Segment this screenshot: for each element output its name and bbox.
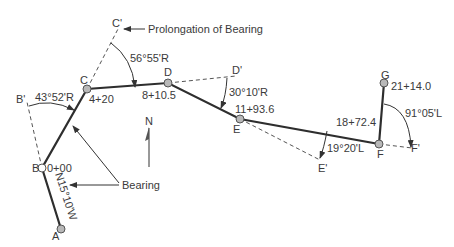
prolongation-cd <box>168 76 236 83</box>
label-g: G <box>381 69 390 81</box>
label-b-prime: B' <box>16 93 25 105</box>
prolongation-bc <box>87 29 118 89</box>
angle-label-e: 19°20'L <box>327 142 364 154</box>
station-c: 4+20 <box>89 93 114 105</box>
prolongation-label: Prolongation of Bearing <box>148 23 263 35</box>
label-d: D <box>164 66 172 78</box>
label-b: B <box>32 162 39 174</box>
label-f: F <box>377 148 384 160</box>
bearing-label: Bearing <box>122 179 160 191</box>
label-f-prime: F' <box>411 142 420 154</box>
angle-arc-c <box>111 43 135 87</box>
label-e-prime: E' <box>318 162 327 174</box>
point-d <box>164 79 172 87</box>
angle-arc-d <box>221 78 227 108</box>
label-c-prime: C' <box>112 17 122 29</box>
angle-label-c: 56°55'R <box>130 52 169 64</box>
station-g: 21+14.0 <box>391 80 431 92</box>
bearing-pointer-bc <box>73 126 119 183</box>
label-e: E <box>233 123 240 135</box>
point-c <box>83 85 91 93</box>
point-f <box>375 140 383 148</box>
station-d: 8+10.5 <box>142 89 176 101</box>
north-label: N <box>145 115 153 127</box>
label-a: A <box>52 230 60 242</box>
point-e <box>236 115 244 123</box>
prolongation-ef <box>379 144 412 148</box>
station-f: 18+72.4 <box>336 116 376 128</box>
traverse-diagram: A B 0+00 C 4+20 D 8+10.5 E 11+93.6 F 18+… <box>0 0 454 247</box>
angle-label-d: 30°10'R <box>229 86 268 98</box>
angle-label-f: 91°05'L <box>405 107 442 119</box>
label-d-prime: D' <box>232 64 242 76</box>
station-e: 11+93.6 <box>235 103 274 115</box>
north-arrow-icon <box>145 127 149 167</box>
label-c: C <box>80 74 88 86</box>
prolongation-ab <box>27 102 42 168</box>
angle-arc-b <box>29 103 74 110</box>
angle-label-b: 43°52'R <box>35 91 74 103</box>
